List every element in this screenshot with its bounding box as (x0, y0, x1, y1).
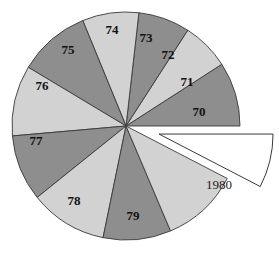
slice-label: 78 (68, 193, 82, 208)
pie-chart-canvas: 707172737475767778791980 (0, 0, 279, 254)
slice-label: 77 (30, 133, 44, 148)
slice-label: 72 (162, 47, 175, 62)
slice-label: 71 (181, 74, 194, 89)
slice-label: 74 (106, 22, 120, 37)
pie-chart-figure: 707172737475767778791980 (0, 0, 279, 254)
slice-label: 73 (140, 30, 154, 45)
exploded-slice-label: 1980 (206, 177, 232, 192)
slice-label: 70 (193, 104, 206, 119)
slice-label: 75 (62, 42, 76, 57)
slice-label: 79 (127, 208, 141, 223)
slice-label: 76 (36, 78, 50, 93)
